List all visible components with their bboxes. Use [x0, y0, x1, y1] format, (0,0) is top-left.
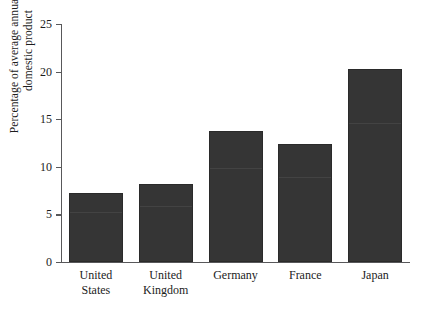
- y-tick-label: 5: [46, 207, 52, 222]
- y-tick-label: 15: [40, 112, 52, 127]
- x-axis-label: Germany: [201, 268, 271, 283]
- bar: [348, 69, 402, 262]
- bar-chart: Percentage of average annual gross domes…: [0, 0, 427, 313]
- y-tick-label: 20: [40, 64, 52, 79]
- x-axis-label: Japan: [340, 268, 410, 283]
- x-axis-label: United States: [61, 268, 131, 298]
- bar: [69, 193, 123, 262]
- bar: [209, 131, 263, 262]
- y-tick-label: 0: [46, 255, 52, 270]
- x-axis-labels: United StatesUnited KingdomGermanyFrance…: [61, 268, 410, 308]
- y-tick-label: 25: [40, 17, 52, 32]
- bar: [278, 144, 332, 262]
- y-tick-label: 10: [40, 159, 52, 174]
- y-axis-title: Percentage of average annual gross domes…: [8, 0, 35, 166]
- x-axis-line: [61, 262, 410, 263]
- y-tick-mark: [56, 262, 61, 263]
- x-axis-label: France: [270, 268, 340, 283]
- plot-area: 0510152025: [61, 24, 410, 262]
- bar: [139, 184, 193, 262]
- bar-series: [61, 24, 410, 262]
- x-axis-label: United Kingdom: [131, 268, 201, 298]
